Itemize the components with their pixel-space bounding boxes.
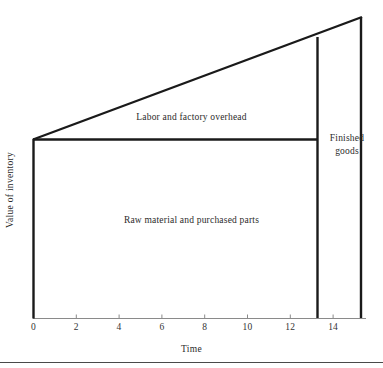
x-axis-ticks [34,315,334,319]
x-tick-label-6: 6 [152,322,172,333]
y-axis-title: Value of inventory [5,130,15,250]
inventory-value-chart: 0 2 4 6 8 10 12 14 Time Value of invento… [0,0,383,368]
x-tick-label-12: 12 [280,322,300,333]
x-tick-label-14: 14 [323,322,343,333]
x-tick-label-4: 4 [109,322,129,333]
label-finished-goods: Finished goods [318,132,376,158]
label-raw-material-and-purchased-parts: Raw material and purchased parts [0,215,383,225]
x-tick-label-2: 2 [66,322,86,333]
chart-plot-area [0,0,383,368]
label-labor-and-factory-overhead: Labor and factory overhead [0,112,383,122]
x-axis-title: Time [0,344,383,354]
bottom-horizontal-rule [0,362,383,363]
x-tick-label-0: 0 [24,322,44,333]
x-tick-label-10: 10 [238,322,258,333]
x-tick-label-8: 8 [195,322,215,333]
